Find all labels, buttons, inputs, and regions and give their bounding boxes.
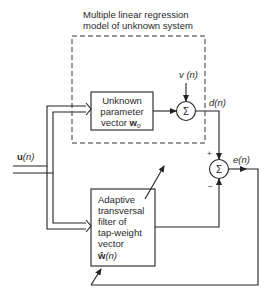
- unknown-parameter-block: Unknown parameter vector wo: [91, 92, 153, 130]
- sigma-icon: Σ: [183, 106, 189, 117]
- hollow-arrowhead-top: [86, 103, 91, 115]
- adaptation-arrow: [91, 269, 101, 285]
- unknown-block-line-3: vector wo: [101, 117, 141, 129]
- error-label: e(n): [233, 154, 250, 165]
- minus-sign: −: [208, 182, 213, 191]
- plus-sign: +: [207, 149, 212, 158]
- hollow-arrowhead-bottom: [86, 220, 91, 232]
- adaptive-line-5: vector: [98, 238, 124, 249]
- input-vector-bus: [13, 103, 91, 232]
- input-label: u(n): [17, 151, 34, 162]
- sigma-icon: Σ: [216, 164, 222, 175]
- unknown-block-line-1: Unknown: [102, 95, 142, 106]
- system-identification-diagram: Multiple linear regression model of unkn…: [0, 0, 272, 301]
- title-line-2: model of unknown system: [83, 20, 193, 31]
- adaptive-line-2: transversal: [98, 205, 144, 216]
- title-line-1: Multiple linear regression: [83, 9, 189, 20]
- desired-label: d(n): [209, 97, 226, 108]
- unknown-block-line-2: parameter: [100, 106, 143, 117]
- adaptive-line-1: Adaptive: [98, 194, 135, 205]
- noise-label: v (n): [179, 69, 198, 80]
- adaptive-line-4: tap-weight: [98, 227, 142, 238]
- summer-1: Σ: [177, 102, 196, 121]
- adaptive-line-6: ŵ(n): [97, 250, 117, 261]
- summer-2: Σ: [210, 160, 229, 179]
- adaptive-filter-block: Adaptive transversal filter of tap-weigh…: [91, 189, 155, 266]
- adaptive-line-3: filter of: [98, 216, 127, 227]
